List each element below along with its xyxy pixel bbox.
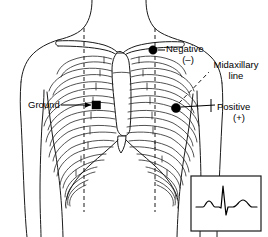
label-negative-sign: (–) [166,54,210,65]
label-midaxillary-word-2: line [229,70,244,81]
label-ground: Ground [28,99,60,110]
ecg-inset-box [191,176,261,231]
electrode-negative[interactable] [149,46,157,54]
electrode-positive[interactable] [171,103,180,112]
sternum [112,53,131,153]
ecg-electrode-placement-figure: Negative (–) Midaxillary line Positive (… [0,0,268,237]
label-midaxillary-word-1: Midaxillary [214,59,259,70]
midaxillary-line [179,72,209,103]
rib-cage-left [44,56,118,208]
ground-leader [61,102,91,108]
label-midaxillary-line: Midaxillary line [207,59,265,81]
label-negative: Negative [166,43,204,54]
electrode-ground[interactable] [92,101,101,109]
label-positive: Positive [217,101,250,112]
label-positive-sign: (+) [217,112,261,123]
ecg-inset [191,176,261,231]
